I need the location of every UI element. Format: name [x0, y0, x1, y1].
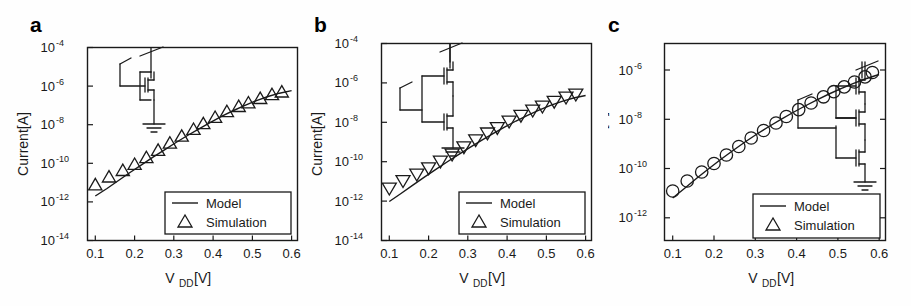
ytick-exp: -8 — [350, 113, 358, 123]
panel-b-xaxis-title: V DD [V] — [459, 270, 505, 289]
xtick-label: 0.6 — [577, 246, 595, 261]
xtick-label: 0.2 — [126, 246, 144, 261]
xaxis-title-main: V — [459, 270, 469, 286]
ytick-label: 10 — [335, 115, 349, 130]
panel-c-plot: 10 -6 10 -8 10 -10 10 -12 0.1 0.2 0.3 — [608, 0, 911, 306]
panel-b-model-curve — [389, 96, 585, 202]
panel-a-ytick-labels: 10 -4 10 -6 10 -8 10 -10 10 -12 10 -14 — [41, 38, 69, 248]
panel-a-legend: Model Simulation — [165, 192, 291, 234]
xtick-label: 0.3 — [746, 246, 764, 261]
panel-a-model-curve — [95, 91, 291, 196]
xtick-label: 0.4 — [204, 246, 222, 261]
ytick-label: 10 — [619, 112, 633, 127]
panel-a-inset-circuit — [120, 47, 165, 132]
panel-b-xtick-marks — [389, 236, 585, 241]
ytick-exp: -12 — [634, 208, 647, 218]
panel-a: a 10 -4 10 -6 10 -8 10 -1 — [0, 0, 303, 306]
panel-b-xtick-labels: 0.1 0.2 0.3 0.4 0.5 0.6 — [380, 246, 594, 261]
ytick-exp: -12 — [56, 192, 69, 202]
xtick-label: 0.4 — [788, 246, 806, 261]
ytick-exp: -4 — [56, 38, 64, 48]
ytick-label: 10 — [619, 210, 633, 225]
ytick-label: 10 — [41, 117, 55, 132]
xtick-label: 0.5 — [537, 246, 555, 261]
yaxis-title: Current[A] — [608, 112, 609, 176]
ytick-exp: -14 — [350, 231, 363, 241]
xtick-label: 0.1 — [380, 246, 398, 261]
xaxis-title-unit: [V] — [194, 270, 211, 286]
xtick-label: 0.2 — [705, 246, 723, 261]
ytick-exp: -6 — [56, 77, 64, 87]
panel-c-model-curve — [673, 75, 879, 199]
xtick-label: 0.1 — [664, 246, 682, 261]
panel-b-inset-circuit — [400, 43, 464, 156]
ytick-label: 10 — [619, 161, 633, 176]
yaxis-title: Current[A] — [15, 112, 31, 176]
xaxis-title-main: V — [165, 270, 175, 286]
ytick-label: 10 — [619, 63, 633, 78]
ytick-label: 10 — [41, 79, 55, 94]
ytick-label: 10 — [41, 156, 55, 171]
legend-model-label: Model — [794, 199, 830, 214]
xtick-label: 0.2 — [420, 246, 438, 261]
panel-a-xtick-marks — [95, 236, 291, 241]
panel-c-legend: Model Simulation — [753, 194, 880, 238]
panel-c-xaxis-title: V DD [V] — [748, 270, 794, 289]
xtick-label: 0.6 — [870, 246, 888, 261]
ytick-label: 10 — [41, 194, 55, 209]
xtick-label: 0.1 — [86, 246, 104, 261]
panel-b-simulation-markers — [382, 89, 583, 195]
ytick-exp: -12 — [350, 192, 363, 202]
panel-b-ytick-labels: 10 -4 10 -6 10 -8 10 -10 10 -12 10 -14 — [335, 34, 363, 248]
panel-a-ytick-marks — [88, 48, 94, 241]
ytick-exp: -10 — [350, 152, 363, 162]
yaxis-title: Current[A] — [309, 112, 325, 176]
xtick-label: 0.4 — [498, 246, 516, 261]
xtick-label: 0.5 — [243, 246, 261, 261]
ytick-exp: -10 — [56, 154, 69, 164]
ytick-exp: -6 — [634, 61, 642, 71]
panel-a-simulation-markers — [89, 86, 289, 190]
panel-a-plot: 10 -4 10 -6 10 -8 10 -10 10 -12 10 -14 — [0, 0, 303, 306]
figure-root: a 10 -4 10 -6 10 -8 10 -1 — [0, 0, 911, 306]
panel-a-xtick-labels: 0.1 0.2 0.3 0.4 0.5 0.6 — [86, 246, 300, 261]
xtick-label: 0.5 — [829, 246, 847, 261]
ytick-label: 10 — [335, 75, 349, 90]
panel-a-xaxis-title: V DD [V] — [165, 270, 211, 289]
xaxis-title-unit: [V] — [488, 270, 505, 286]
panel-b-legend: Model Simulation — [459, 192, 585, 234]
ytick-exp: -10 — [634, 159, 647, 169]
ytick-exp: -14 — [56, 231, 69, 241]
xaxis-title-sub: DD — [473, 278, 487, 289]
ytick-label: 10 — [335, 194, 349, 209]
legend-simulation-label: Simulation — [500, 215, 561, 230]
panel-c-inset-circuit — [798, 61, 878, 190]
legend-model-label: Model — [206, 196, 242, 211]
legend-simulation-label: Simulation — [206, 215, 267, 230]
xaxis-title-sub: DD — [179, 278, 193, 289]
panel-b-plot: 10 -4 10 -6 10 -8 10 -10 10 -12 10 -14 — [304, 0, 607, 306]
ytick-exp: -8 — [56, 115, 64, 125]
ytick-label: 10 — [41, 40, 55, 55]
xaxis-title-sub: DD — [762, 278, 776, 289]
ytick-label: 10 — [335, 154, 349, 169]
ytick-label: 10 — [41, 233, 55, 248]
xtick-label: 0.6 — [283, 246, 301, 261]
ytick-exp: -8 — [634, 110, 642, 120]
xtick-label: 0.3 — [165, 246, 183, 261]
ytick-exp: -6 — [350, 73, 358, 83]
ytick-label: 10 — [335, 36, 349, 51]
ytick-label: 10 — [335, 233, 349, 248]
legend-model-label: Model — [500, 196, 536, 211]
xtick-label: 0.3 — [459, 246, 477, 261]
xaxis-title-main: V — [748, 270, 758, 286]
panel-c-xtick-labels: 0.1 0.2 0.3 0.4 0.5 0.6 — [664, 246, 889, 261]
legend-simulation-label: Simulation — [794, 218, 855, 233]
xaxis-title-unit: [V] — [777, 270, 794, 286]
panel-b: b 10 -4 10 -6 10 -8 10 -10 — [304, 0, 607, 306]
panel-c: c 10 -6 10 -8 10 -10 1 — [608, 0, 911, 306]
panel-b-ytick-marks — [382, 44, 388, 241]
panel-c-ytick-labels: 10 -6 10 -8 10 -10 10 -12 — [619, 61, 647, 226]
ytick-exp: -4 — [350, 34, 358, 44]
